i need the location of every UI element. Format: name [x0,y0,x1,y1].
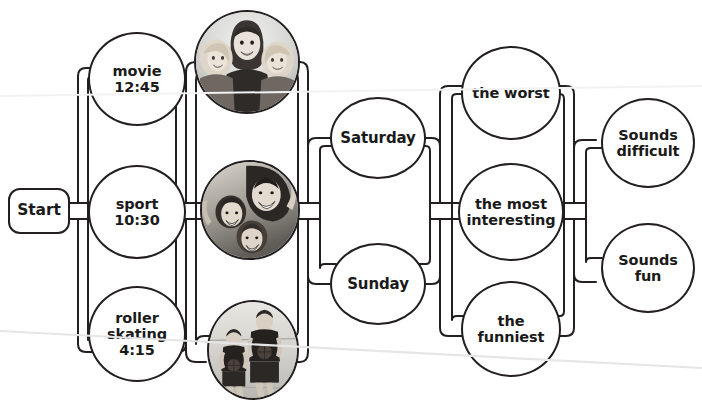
superlative-option-the-worst[interactable]: the worst [461,46,561,140]
day-option-sunday[interactable]: Sunday [330,243,426,325]
day-option-saturday[interactable]: Saturday [330,97,426,179]
wire-e-down-inner [320,211,336,268]
wire-f-up-outer [424,138,440,203]
superlative-option-the-funniest-label: the funniest [474,313,549,345]
wire-h-down-outer [558,219,574,336]
wire-i-up-inner [586,148,602,211]
photo-three-girls-smiling-image [196,12,298,112]
reaction-option-sounds-fun[interactable]: Sounds fun [601,223,695,313]
wire-h-up-outer [558,86,574,203]
activity-option-roller-skating-label: roller skating 4:15 [103,310,171,359]
day-option-sunday-label: Sunday [343,276,413,293]
flowchart-diagram: Start movie 12:45 sport 10:30 roller ska… [0,0,702,402]
activity-option-movie[interactable]: movie 12:45 [88,32,186,126]
activity-option-sport-label: sport 10:30 [110,196,164,228]
reaction-option-sounds-fun-label: Sounds fun [614,252,681,284]
activity-option-sport[interactable]: sport 10:30 [88,165,186,259]
reaction-option-sounds-difficult-label: Sounds difficult [613,127,684,159]
start-node[interactable]: Start [8,188,70,234]
photo-option-children-laughing[interactable] [200,160,300,260]
wire-f-down-outer [424,219,440,284]
superlative-option-the-funniest[interactable]: the funniest [461,281,561,377]
reaction-option-sounds-difficult[interactable]: Sounds difficult [601,98,695,188]
wire-e-up-inner [320,146,336,211]
start-label: Start [13,202,65,219]
wire-i-down-inner [586,211,602,262]
photo-children-laughing-image [202,162,298,258]
photo-option-three-girls-smiling[interactable] [194,10,300,114]
superlative-option-the-most-interesting-label: the most interesting [462,196,559,228]
activity-option-movie-label: movie 12:45 [109,63,166,95]
photo-option-two-basketball-players[interactable] [207,300,299,400]
superlative-option-the-worst-label: the worst [468,85,553,101]
wire-a-start-corner-top [70,190,78,203]
wire-f-down-inner [418,211,430,264]
superlative-option-the-most-interesting[interactable]: the most interesting [458,163,564,261]
activity-option-roller-skating[interactable]: roller skating 4:15 [88,286,186,382]
photo-two-basketball-players-image [209,302,297,398]
day-option-saturday-label: Saturday [336,130,420,147]
